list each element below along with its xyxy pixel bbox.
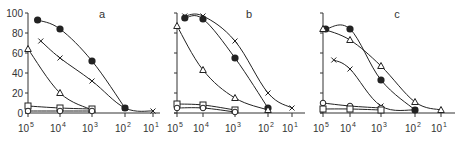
series-open-square (320, 106, 384, 113)
x-tick-label: 103 (371, 121, 387, 134)
series-open-triangle (174, 23, 272, 113)
series-filled-circle (181, 14, 271, 111)
open-triangle-marker (347, 37, 354, 43)
x-tick-label: 104 (340, 121, 356, 134)
x-tick-label: 102 (115, 121, 131, 134)
series-filled-circle (34, 16, 129, 111)
open-square-marker (347, 106, 353, 112)
series-line (41, 41, 153, 111)
open-triangle-marker (232, 95, 239, 101)
filled-circle-marker (346, 25, 353, 32)
x-tick-label: 101 (143, 121, 159, 134)
panel-b: 105104103102101b (167, 8, 305, 134)
y-tick-label: 20 (12, 88, 24, 99)
y-tick-label: 60 (12, 48, 24, 59)
series-cross (38, 39, 155, 114)
open-triangle-marker (25, 46, 32, 52)
x-tick-label: 104 (193, 121, 209, 134)
open-triangle-marker (174, 23, 181, 29)
open-triangle-marker (412, 99, 419, 105)
panel-c: 105104103102101c (313, 8, 455, 134)
y-tick-label: 0 (17, 108, 23, 119)
cross-marker (38, 39, 43, 44)
series-filled-circle (322, 25, 419, 114)
series-line (326, 25, 415, 110)
x-tick-label: 105 (18, 121, 34, 134)
panel-label: a (99, 8, 106, 20)
cross-marker (90, 79, 95, 84)
open-circle-marker (232, 109, 238, 115)
cross-marker (58, 56, 63, 61)
panel-label: c (394, 8, 400, 20)
y-tick-label: 80 (12, 28, 24, 39)
open-circle-marker (320, 100, 326, 106)
x-tick-label: 101 (431, 121, 447, 134)
y-tick-label: 40 (12, 68, 24, 79)
series-open-triangle (25, 46, 96, 113)
cross-marker (331, 58, 336, 63)
open-circle-marker (89, 108, 95, 114)
series-line (323, 29, 441, 110)
x-tick-label: 105 (313, 121, 329, 134)
figure: 020406080100105104103102101a105104103102… (0, 0, 460, 141)
panel-label: b (246, 8, 252, 20)
series-line (177, 26, 268, 110)
filled-circle-marker (88, 57, 95, 64)
cross-marker (266, 91, 271, 96)
open-square-marker (378, 107, 384, 113)
cross-marker (348, 67, 353, 72)
open-square-marker (320, 106, 326, 112)
series-line (334, 60, 415, 110)
x-tick-label: 104 (50, 121, 66, 134)
x-tick-label: 103 (82, 121, 98, 134)
series-cross (331, 58, 417, 113)
filled-circle-marker (231, 54, 238, 61)
open-circle-marker (57, 108, 63, 114)
open-circle-marker (174, 105, 180, 111)
series-open-triangle (320, 26, 445, 113)
x-tick-label: 102 (258, 121, 274, 134)
x-tick-label: 102 (405, 121, 421, 134)
filled-circle-marker (34, 16, 41, 23)
series-line (185, 14, 292, 108)
filled-circle-marker (199, 15, 206, 22)
series-line (38, 20, 125, 108)
filled-circle-marker (377, 76, 384, 83)
x-tick-label: 103 (225, 121, 241, 134)
open-circle-marker (25, 108, 31, 114)
open-circle-marker (200, 105, 206, 111)
cross-marker (290, 106, 295, 111)
x-tick-label: 105 (167, 121, 183, 134)
x-tick-label: 101 (282, 121, 298, 134)
panel-a: 020406080100105104103102101a (6, 8, 160, 135)
filled-circle-marker (181, 14, 188, 21)
cross-marker (233, 39, 238, 44)
filled-circle-marker (56, 25, 63, 32)
y-tick-label: 100 (6, 8, 23, 19)
